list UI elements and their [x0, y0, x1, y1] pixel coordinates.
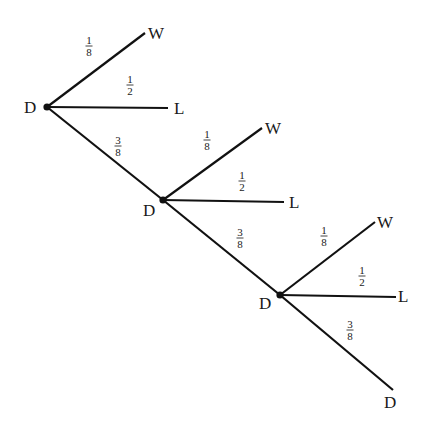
edge: 12L	[280, 264, 408, 306]
fraction-numerator: 1	[321, 224, 327, 236]
probability-fraction: 18	[204, 128, 211, 152]
fraction-denominator: 2	[239, 181, 245, 193]
fraction-denominator: 2	[359, 276, 365, 288]
node-dot	[43, 103, 50, 110]
branch-line	[280, 295, 396, 297]
node-dot	[159, 196, 166, 203]
outcome-label-l: L	[174, 99, 184, 118]
edge: 18W	[280, 213, 394, 295]
fraction-denominator: 8	[86, 46, 92, 58]
branch-line	[163, 200, 284, 202]
node-label-d: D	[259, 294, 271, 313]
tree-nodes: DDD	[24, 98, 284, 313]
branch-line	[47, 107, 168, 108]
edge: 38	[163, 200, 280, 295]
probability-fraction: 12	[359, 264, 366, 288]
fraction-denominator: 8	[321, 236, 327, 248]
fraction-numerator: 1	[359, 264, 365, 276]
outcome-label-l: L	[398, 287, 408, 306]
probability-fraction: 38	[347, 318, 354, 342]
node-label-d: D	[24, 98, 36, 117]
node-dot	[276, 291, 283, 298]
outcome-label-w: W	[377, 213, 394, 232]
fraction-denominator: 8	[347, 330, 353, 342]
tree-node: D	[143, 196, 167, 220]
edge: 38	[47, 107, 163, 200]
probability-tree-diagram: 18W12L3818W12L3818W12L38D DDD	[0, 0, 421, 427]
edge: 12L	[163, 169, 299, 212]
branch-line	[163, 128, 262, 200]
fraction-denominator: 2	[127, 85, 133, 97]
outcome-label-d: D	[384, 393, 396, 412]
edge: 38D	[280, 295, 396, 412]
tree-node: D	[24, 98, 51, 117]
branch-line	[280, 295, 393, 390]
fraction-numerator: 1	[86, 34, 92, 46]
probability-fraction: 38	[115, 134, 122, 158]
probability-fraction: 18	[321, 224, 328, 248]
fraction-numerator: 3	[347, 318, 353, 330]
edge: 18W	[163, 119, 282, 200]
edge: 12L	[47, 73, 184, 118]
outcome-label-w: W	[148, 24, 165, 43]
branch-line	[47, 107, 163, 200]
fraction-numerator: 3	[115, 134, 121, 146]
probability-fraction: 12	[239, 169, 246, 193]
fraction-numerator: 3	[237, 226, 243, 238]
tree-node: D	[259, 291, 284, 313]
edge: 18W	[47, 24, 165, 107]
outcome-label-w: W	[265, 119, 282, 138]
outcome-label-l: L	[289, 193, 299, 212]
node-label-d: D	[143, 201, 155, 220]
fraction-numerator: 1	[239, 169, 245, 181]
fraction-denominator: 8	[237, 238, 243, 250]
probability-fraction: 12	[127, 73, 134, 97]
probability-fraction: 38	[237, 226, 244, 250]
fraction-numerator: 1	[127, 73, 133, 85]
tree-edges: 18W12L3818W12L3818W12L38D	[47, 24, 408, 412]
fraction-denominator: 8	[204, 140, 210, 152]
fraction-numerator: 1	[204, 128, 210, 140]
fraction-denominator: 8	[115, 146, 121, 158]
probability-fraction: 18	[86, 34, 93, 58]
branch-line	[163, 200, 280, 295]
